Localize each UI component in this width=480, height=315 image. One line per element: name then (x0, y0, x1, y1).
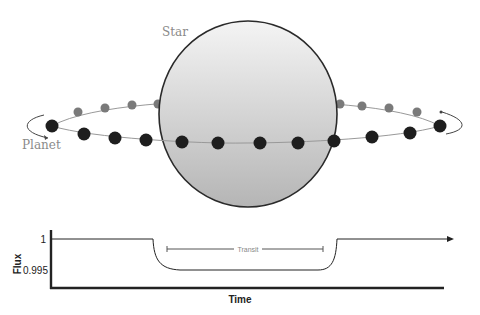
y-tick-0995: 0.995 (23, 265, 48, 276)
planet-icon (140, 134, 153, 147)
planet-icon (358, 102, 367, 111)
planet-icon (176, 136, 189, 149)
planet-icon (109, 132, 122, 145)
planet-icon (328, 135, 341, 148)
planet-icon (366, 131, 379, 144)
star-label: Star (162, 25, 188, 39)
arrowhead-icon (440, 111, 443, 114)
planet-icon (128, 101, 137, 110)
planet-label: Planet (22, 138, 61, 152)
planet-icon (212, 137, 225, 150)
planet-icon (292, 137, 305, 150)
planet-icon (434, 120, 447, 133)
planet-icon (74, 108, 83, 117)
planet-icon (46, 120, 59, 133)
y-axis-label: Flux (12, 253, 23, 274)
y-tick-1: 1 (40, 234, 46, 245)
x-axis-label: Time (228, 294, 252, 305)
planet-icon (101, 104, 110, 113)
arrowhead-icon (447, 236, 454, 242)
planet-icon (254, 137, 267, 150)
planet-icon (413, 108, 422, 117)
transit-label: Transit (237, 246, 258, 253)
transit-diagram: Star Planet Transit 1 0.995 Flux Time (0, 0, 480, 315)
planet-icon (385, 104, 394, 113)
light-curve-chart: Transit 1 0.995 Flux Time (12, 230, 454, 305)
flux-curve (52, 239, 452, 270)
planet-icon (78, 128, 91, 141)
planet-icon (404, 127, 417, 140)
star-icon (159, 21, 337, 207)
orbit-direction-arrow-left (27, 115, 48, 138)
